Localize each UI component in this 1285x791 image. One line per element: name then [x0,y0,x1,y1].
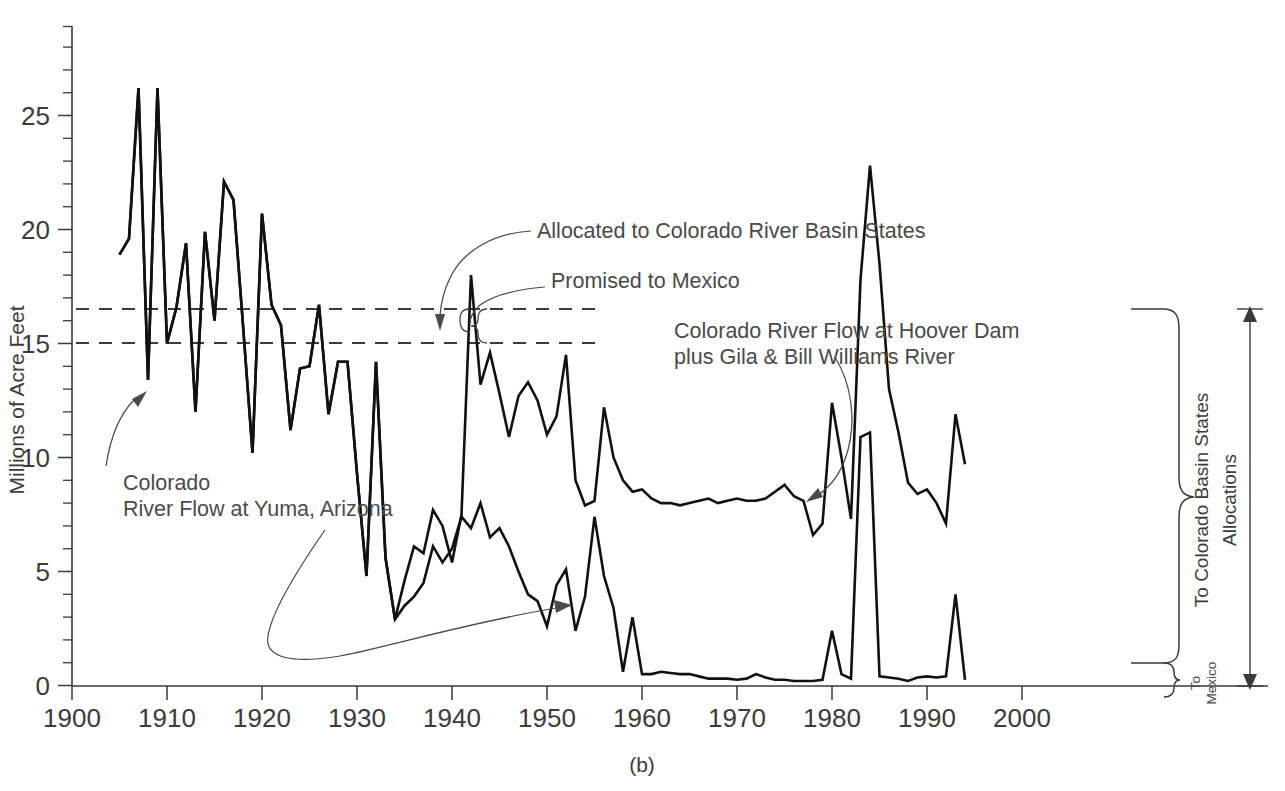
chart-svg: 0 5 10 15 20 25 Millions of Acre Feet 19… [0,0,1285,791]
annotation-allocated-label: Allocated to Colorado River Basin States [537,219,925,243]
annotation-yuma-label-line1: Colorado [123,471,210,495]
x-tick-label-1950: 1950 [518,703,576,733]
annotation-yuma-leader-upper [106,391,147,466]
y-axis: 0 5 10 15 20 25 Millions of Acre Feet [5,26,72,701]
x-tick-label-1980: 1980 [803,703,861,733]
y-tick-label-5: 5 [36,557,50,587]
right-bracket-mexico-label-line2: Mexico [1204,662,1219,705]
figure-container: 0 5 10 15 20 25 Millions of Acre Feet 19… [0,0,1285,791]
y-tick-label-20: 20 [21,215,50,245]
x-tick-label-1930: 1930 [328,703,386,733]
right-bracket-basin-states [1131,309,1194,663]
arrow-head-allocated [435,314,445,331]
y-tick-label-25: 25 [21,101,50,131]
x-tick-label-1940: 1940 [423,703,481,733]
x-tick-label-1990: 1990 [898,703,956,733]
y-minor-ticks [63,27,72,663]
arrow-head-yuma-lower [554,600,572,613]
x-tick-label-1900: 1900 [43,703,101,733]
x-axis: 1900 1910 1920 1930 1940 1950 1960 1970 … [43,686,1268,733]
y-axis-title: Millions of Acre Feet [5,305,28,494]
right-bracket-mexico [1164,663,1180,697]
series-line-yuma [120,88,966,681]
annotation-yuma-label-line2: River Flow at Yuma, Arizona [123,497,393,521]
annotation-mexico-leader [470,287,545,324]
x-tick-label-1960: 1960 [613,703,671,733]
right-bracket-basin-states-label: To Colorado Basin States [1191,393,1212,607]
annotation-allocated-leader [435,231,531,331]
annotation-mexico-label: Promised to Mexico [551,269,740,293]
x-tick-label-1920: 1920 [233,703,291,733]
arrow-head-hoover [806,488,823,502]
arrow-head-yuma-upper [132,391,147,407]
allocations-arrow [1237,306,1263,690]
right-bracket-mexico-label-line1: To [1188,676,1203,690]
x-tick-label-1910: 1910 [138,703,196,733]
annotation-hoover-label-line2: plus Gila & Bill Williams River [674,345,955,369]
x-tick-label-2000: 2000 [993,703,1051,733]
arrow-head-allocations-bottom [1243,674,1257,690]
annotation-hoover-label-line1: Colorado River Flow at Hoover Dam [674,319,1019,343]
figure-caption: (b) [629,753,655,776]
allocations-label: Allocations [1219,454,1240,546]
y-tick-label-0: 0 [36,671,50,701]
x-tick-label-1970: 1970 [708,703,766,733]
